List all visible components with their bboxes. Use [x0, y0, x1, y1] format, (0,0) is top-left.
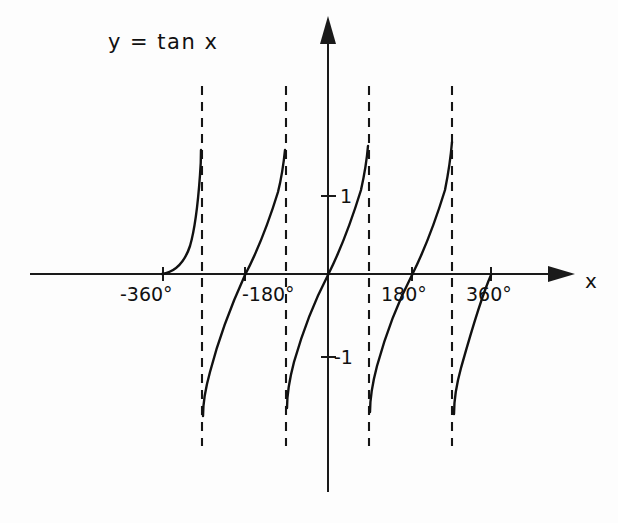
page-title: y = tan x [108, 30, 218, 54]
y-tick-label--1: -1 [334, 346, 353, 368]
x-tick-label--360: -360° [120, 283, 173, 305]
y-tick-label-1: 1 [340, 185, 352, 207]
figure-background [0, 0, 618, 523]
x-tick-label--180: -180° [242, 283, 295, 305]
tangent-function-figure: y = tan x -360° -180° 180° 360° 1 -1 x [0, 0, 618, 523]
x-axis-label: x [585, 269, 597, 293]
x-tick-label-180: 180° [381, 283, 427, 305]
x-tick-label-360: 360° [466, 283, 512, 305]
plot-canvas: y = tan x -360° -180° 180° 360° 1 -1 x [0, 0, 618, 523]
